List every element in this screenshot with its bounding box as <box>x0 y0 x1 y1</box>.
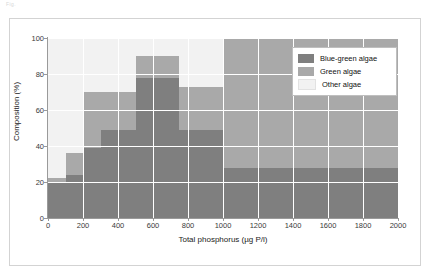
bar-segment-blue-green-algae <box>179 130 201 218</box>
y-axis-tick-label: 40 <box>22 142 44 151</box>
x-axis-tick-mark <box>328 218 329 221</box>
bar-segment-other-algae <box>48 38 66 178</box>
bar-segment-other-algae <box>157 38 179 56</box>
bar-column <box>66 38 84 218</box>
x-axis-tick-mark <box>258 218 259 221</box>
legend-label: Green algae <box>320 67 361 76</box>
legend-label: Other algae <box>322 80 361 89</box>
bar-segment-blue-green-algae <box>363 168 398 218</box>
y-axis-tick-mark <box>44 110 47 111</box>
legend-item: Other algae <box>298 78 391 91</box>
bar-column <box>258 38 293 218</box>
y-axis-tick-label: 0 <box>22 214 44 223</box>
x-axis-tick-label: 200 <box>77 221 90 230</box>
bar-column <box>83 38 101 218</box>
x-axis-tick-mark <box>188 218 189 221</box>
bar-segment-blue-green-algae <box>48 182 66 218</box>
x-axis-tick-label: 1600 <box>320 221 337 230</box>
gridline-vertical <box>188 38 189 218</box>
bar-segment-green-algae <box>83 92 101 148</box>
y-axis-tick-mark <box>44 38 47 39</box>
x-axis-tick-label: 1000 <box>215 221 232 230</box>
bar-segment-green-algae <box>66 153 84 175</box>
bar-column <box>48 38 66 218</box>
bar-segment-other-algae <box>201 38 223 87</box>
legend-swatch-icon <box>298 54 314 63</box>
bar-segment-green-algae <box>223 38 258 168</box>
gridline-vertical <box>153 38 154 218</box>
legend-label: Blue-green algae <box>320 54 377 63</box>
bar-segment-blue-green-algae <box>223 168 258 218</box>
bar-segment-blue-green-algae <box>201 130 223 218</box>
gridline-vertical <box>258 38 259 218</box>
bar-segment-other-algae <box>179 38 201 87</box>
y-axis-tick-label: 20 <box>22 178 44 187</box>
bar-segment-green-algae <box>258 38 293 168</box>
gridline-vertical <box>118 38 119 218</box>
y-axis-tick-mark <box>44 218 47 219</box>
bar-segment-other-algae <box>83 38 101 92</box>
chart-legend: Blue-green algaeGreen algaeOther algae <box>292 47 397 96</box>
bar-segment-green-algae <box>201 87 223 130</box>
x-axis-tick-label: 2000 <box>390 221 407 230</box>
bar-column <box>157 38 179 218</box>
x-axis-tick-mark <box>153 218 154 221</box>
x-axis-tick-label: 400 <box>112 221 125 230</box>
x-axis-tick-label: 0 <box>46 221 50 230</box>
bar-segment-blue-green-algae <box>293 168 328 218</box>
stacked-histogram-chart: 020406080100 020040060080010001200140016… <box>0 0 431 276</box>
bar-segment-blue-green-algae <box>157 78 179 218</box>
x-axis-tick-mark <box>48 218 49 221</box>
bar-column <box>201 38 223 218</box>
legend-swatch-icon <box>298 67 314 76</box>
x-axis-tick-mark <box>363 218 364 221</box>
x-axis-tick-label: 1200 <box>250 221 267 230</box>
legend-swatch-icon <box>298 79 316 90</box>
y-axis-tick-mark <box>44 182 47 183</box>
y-axis-tick-label: 60 <box>22 106 44 115</box>
y-axis-tick-labels: 020406080100 <box>20 0 44 276</box>
bar-column <box>223 38 258 218</box>
bar-segment-blue-green-algae <box>258 168 293 218</box>
y-axis-title: Composition (%) <box>12 52 21 172</box>
x-axis-title: Total phosphorus (µg P/l) <box>48 235 398 244</box>
y-axis-tick-label: 100 <box>22 34 44 43</box>
bar-segment-blue-green-algae <box>328 168 363 218</box>
legend-item: Blue-green algae <box>298 52 391 65</box>
x-axis-tick-label: 1400 <box>285 221 302 230</box>
gridline-vertical <box>223 38 224 218</box>
bar-segment-blue-green-algae <box>136 78 158 218</box>
y-axis-tick-mark <box>44 74 47 75</box>
legend-item: Green algae <box>298 65 391 78</box>
x-axis-tick-label: 600 <box>147 221 160 230</box>
x-axis-tick-mark <box>223 218 224 221</box>
x-axis-tick-label: 800 <box>182 221 195 230</box>
bar-column <box>179 38 201 218</box>
x-axis-tick-mark <box>118 218 119 221</box>
bar-segment-green-algae <box>179 87 201 130</box>
bar-segment-other-algae <box>66 38 84 153</box>
gridline-vertical <box>83 38 84 218</box>
y-axis-line <box>47 37 48 219</box>
x-axis-tick-mark <box>398 218 399 221</box>
x-axis-tick-mark <box>83 218 84 221</box>
y-axis-tick-mark <box>44 146 47 147</box>
y-axis-tick-label: 80 <box>22 70 44 79</box>
x-axis-tick-mark <box>293 218 294 221</box>
bar-segment-other-algae <box>136 38 158 56</box>
bar-column <box>136 38 158 218</box>
x-axis-tick-label: 1800 <box>355 221 372 230</box>
